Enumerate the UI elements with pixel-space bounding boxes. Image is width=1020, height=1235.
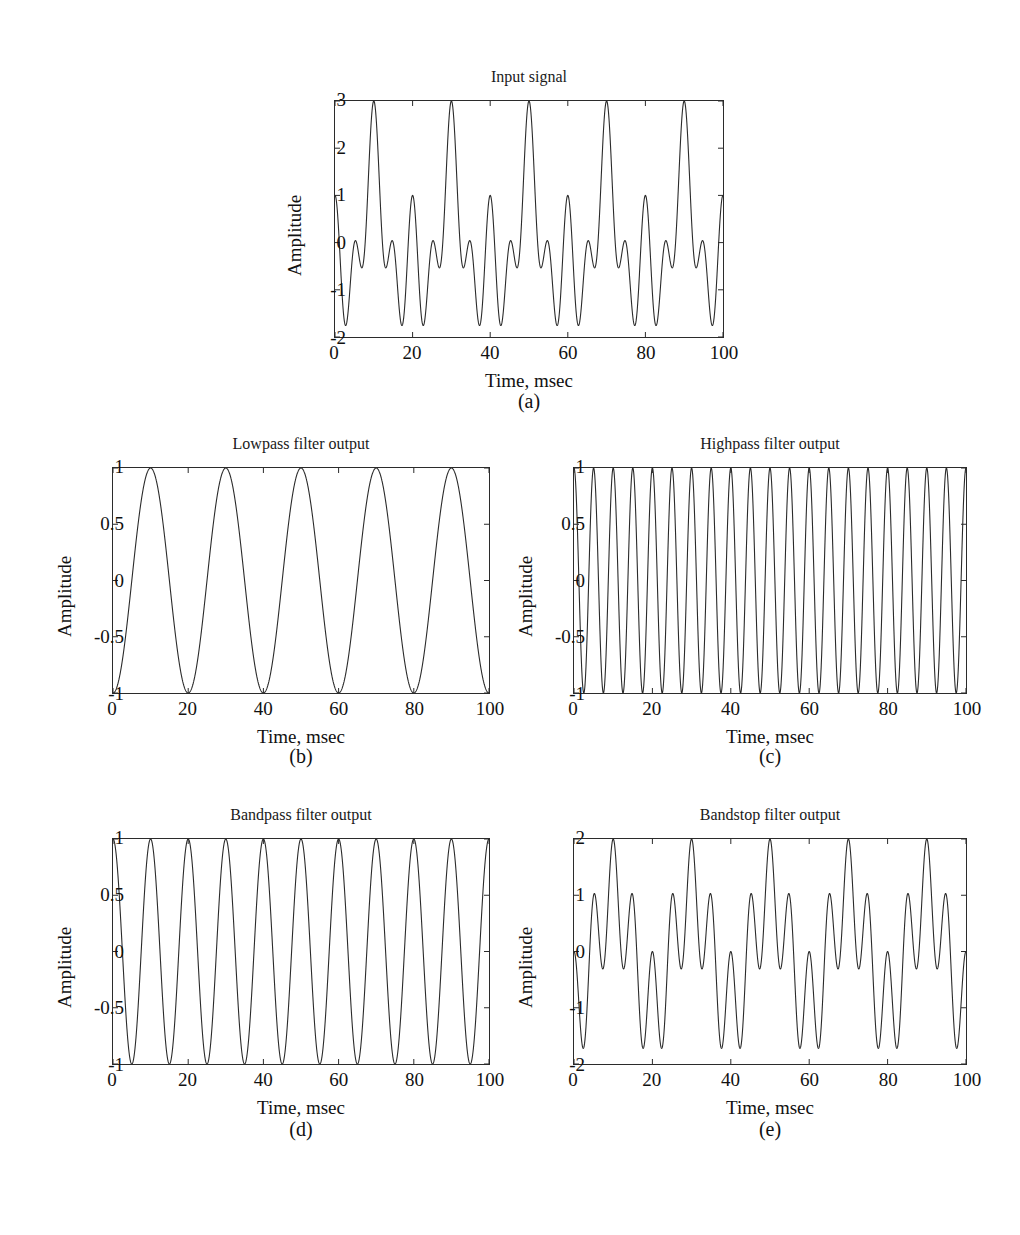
series-lowpass	[113, 468, 489, 693]
xtick-label: 80	[637, 342, 656, 364]
ytick-label: 2	[561, 827, 585, 849]
panel-highpass-output: Highpass filter output 1 0.5 0 -0.5 -1 0…	[573, 435, 967, 765]
ytick-label: 1	[561, 456, 585, 478]
xtick-label: 0	[568, 698, 578, 720]
xtick-label: 80	[405, 698, 424, 720]
waveform-trace-bandstop-output	[574, 839, 966, 1064]
xtick-label: 100	[710, 342, 739, 364]
x-axis-label: Time, msec	[573, 1097, 967, 1119]
xtick-label: 100	[953, 1069, 982, 1091]
xtick-label: 60	[800, 698, 819, 720]
panel-title: Lowpass filter output	[112, 435, 490, 453]
panel-title: Bandpass filter output	[112, 806, 490, 824]
ytick-label: 0	[100, 570, 124, 592]
xtick-label: 60	[559, 342, 578, 364]
xtick-label: 40	[254, 1069, 273, 1091]
ytick-label: -1	[316, 279, 346, 301]
xtick-label: 40	[254, 698, 273, 720]
ytick-label: 1	[322, 184, 346, 206]
panel-bandstop-output: Bandstop filter output 2 1 0 -1 -2 0 20 …	[573, 806, 967, 1136]
xtick-label: 0	[568, 1069, 578, 1091]
ytick-label: 0	[561, 570, 585, 592]
ytick-label: 0.5	[74, 513, 124, 535]
xtick-label: 80	[879, 1069, 898, 1091]
xtick-label: 20	[178, 698, 197, 720]
panel-title: Highpass filter output	[573, 435, 967, 453]
ytick-label: 0	[100, 941, 124, 963]
series-bandpass	[113, 839, 489, 1064]
subfigure-caption-d: (d)	[241, 1118, 361, 1141]
xtick-label: 60	[800, 1069, 819, 1091]
xtick-label: 20	[642, 698, 661, 720]
plot-area-bandpass-output	[112, 838, 490, 1065]
y-axis-label: Amplitude	[54, 556, 76, 637]
waveform-trace-bandpass-output	[113, 839, 489, 1064]
ytick-label: 0.5	[535, 513, 585, 535]
ytick-label: -1	[555, 997, 585, 1019]
plot-area-bandstop-output	[573, 838, 967, 1065]
xtick-label: 0	[107, 1069, 117, 1091]
panel-input-signal: Input signal 3 2 1 0 -1 -2 0 20 40 60 80…	[334, 68, 724, 418]
y-axis-label: Amplitude	[515, 556, 537, 637]
panel-title: Input signal	[334, 68, 724, 86]
waveform-trace-input-signal	[335, 101, 723, 337]
series-bandstop	[574, 839, 966, 1048]
xtick-label: 100	[953, 698, 982, 720]
waveform-trace-highpass-output	[574, 468, 966, 693]
xtick-label: 100	[476, 698, 505, 720]
y-axis-label: Amplitude	[284, 195, 306, 276]
panel-lowpass-output: Lowpass filter output 1 0.5 0 -0.5 -1 0 …	[112, 435, 490, 765]
xtick-label: 20	[403, 342, 422, 364]
xtick-label: 20	[178, 1069, 197, 1091]
ytick-label: 0.5	[74, 884, 124, 906]
figure-root: Input signal 3 2 1 0 -1 -2 0 20 40 60 80…	[0, 0, 1020, 1235]
y-axis-label: Amplitude	[515, 927, 537, 1008]
xtick-label: 60	[329, 1069, 348, 1091]
ytick-label: 1	[561, 884, 585, 906]
ytick-label: 1	[100, 456, 124, 478]
plot-area-lowpass-output	[112, 467, 490, 694]
ytick-label: 2	[322, 137, 346, 159]
ytick-label: 0	[322, 232, 346, 254]
xtick-label: 40	[721, 698, 740, 720]
plot-area-input-signal	[334, 100, 724, 338]
xtick-label: 0	[107, 698, 117, 720]
x-axis-label: Time, msec	[334, 370, 724, 392]
xtick-label: 40	[721, 1069, 740, 1091]
waveform-trace-lowpass-output	[113, 468, 489, 693]
ytick-label: 1	[100, 827, 124, 849]
subfigure-caption-a: (a)	[469, 390, 589, 413]
x-axis-label: Time, msec	[112, 1097, 490, 1119]
xtick-label: 40	[481, 342, 500, 364]
subfigure-caption-c: (c)	[710, 745, 830, 768]
ytick-label: 3	[322, 89, 346, 111]
xtick-label: 60	[329, 698, 348, 720]
xtick-label: 80	[405, 1069, 424, 1091]
y-axis-label: Amplitude	[54, 927, 76, 1008]
subfigure-caption-e: (e)	[710, 1118, 830, 1141]
panel-title: Bandstop filter output	[573, 806, 967, 824]
series-highpass	[574, 468, 966, 693]
series-input	[335, 101, 723, 326]
panel-bandpass-output: Bandpass filter output 1 0.5 0 -0.5 -1 0…	[112, 806, 490, 1136]
subfigure-caption-b: (b)	[241, 745, 361, 768]
xtick-label: 0	[329, 342, 339, 364]
xtick-label: 100	[476, 1069, 505, 1091]
plot-area-highpass-output	[573, 467, 967, 694]
ytick-label: 0	[561, 941, 585, 963]
xtick-label: 80	[879, 698, 898, 720]
xtick-label: 20	[642, 1069, 661, 1091]
